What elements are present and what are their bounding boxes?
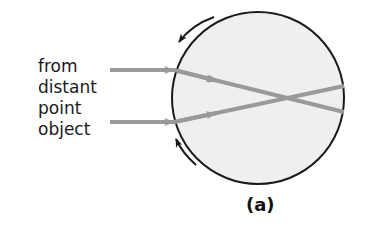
source-object-label: from distant point object <box>38 56 97 140</box>
sphere-body <box>172 12 344 184</box>
panel-caption: (a) <box>246 194 275 215</box>
optics-figure-panel-a: from distant point object (a) <box>0 0 367 240</box>
